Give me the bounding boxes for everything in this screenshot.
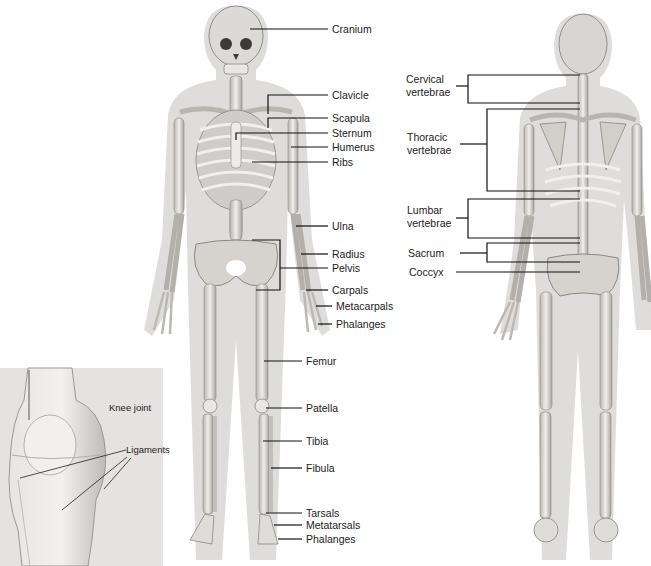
label-tibia: Tibia xyxy=(306,435,328,447)
label-metatarsals: Metatarsals xyxy=(306,519,360,531)
front-skeleton xyxy=(144,6,330,560)
label-phalanges-foot: Phalanges xyxy=(306,533,356,545)
label-carpals: Carpals xyxy=(332,284,368,296)
label-humerus: Humerus xyxy=(332,141,375,153)
label-radius: Radius xyxy=(332,248,365,260)
label-sacrum: Sacrum xyxy=(408,247,444,259)
label-cranium: Cranium xyxy=(332,23,372,35)
back-skeleton xyxy=(494,14,651,560)
label-phalanges-hand: Phalanges xyxy=(336,318,386,330)
label-metacarpals: Metacarpals xyxy=(336,300,393,312)
label-sternum: Sternum xyxy=(332,127,372,139)
label-fibula: Fibula xyxy=(306,462,335,474)
skeleton-diagram: Cranium Clavicle Scapula Sternum Humerus… xyxy=(0,0,651,566)
label-scapula: Scapula xyxy=(332,112,370,124)
label-thoracic-vertebrae: Thoracic vertebrae xyxy=(407,131,451,157)
label-clavicle: Clavicle xyxy=(332,89,369,101)
label-femur: Femur xyxy=(306,355,336,367)
label-cervical-vertebrae: Cervical vertebrae xyxy=(406,73,450,99)
label-lumbar-vertebrae: Lumbar vertebrae xyxy=(407,204,451,230)
knee-joint-inset xyxy=(0,368,163,566)
label-ligaments: Ligaments xyxy=(126,444,170,456)
label-patella: Patella xyxy=(306,402,338,414)
label-tarsals: Tarsals xyxy=(306,507,339,519)
label-coccyx: Coccyx xyxy=(409,266,443,278)
label-ulna: Ulna xyxy=(332,220,354,232)
label-pelvis: Pelvis xyxy=(332,262,360,274)
label-ribs: Ribs xyxy=(332,156,353,168)
inset-title-knee-joint: Knee joint xyxy=(109,402,151,414)
diagram-graphics xyxy=(0,0,651,566)
